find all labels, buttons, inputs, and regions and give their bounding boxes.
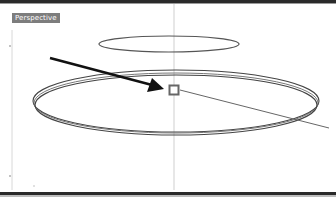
axis-marker bbox=[9, 175, 11, 177]
viewport-title-label[interactable]: Perspective bbox=[12, 13, 60, 23]
diagonal-line[interactable] bbox=[180, 90, 329, 128]
selected-point-icon[interactable] bbox=[170, 86, 179, 95]
annotation-arrow-icon bbox=[50, 58, 164, 92]
viewport-scene[interactable] bbox=[0, 4, 336, 192]
lower-ring[interactable] bbox=[33, 70, 319, 135]
viewport-frame-bottom-inner bbox=[0, 195, 336, 197]
axis-marker bbox=[9, 45, 11, 47]
upper-circle[interactable] bbox=[99, 36, 239, 52]
world-axes-icon bbox=[33, 185, 35, 187]
perspective-viewport[interactable]: Perspective bbox=[0, 4, 336, 192]
